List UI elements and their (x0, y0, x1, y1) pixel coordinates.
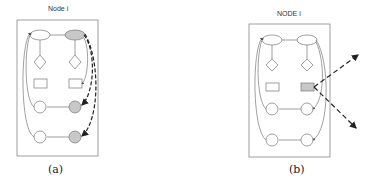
row4-right-circle (69, 131, 81, 143)
node-box (17, 20, 98, 156)
top-right-ellipse (297, 35, 317, 45)
panel-b (249, 24, 358, 157)
left-diamond (34, 55, 46, 69)
dashed-arrow-up (314, 55, 358, 87)
row3-right-circle (69, 101, 81, 113)
row4-left-circle (34, 131, 46, 143)
left-rectangle (266, 83, 279, 91)
row3-left-circle (34, 101, 46, 113)
right-rectangle (301, 83, 314, 91)
dashed-arrow-2 (82, 34, 96, 136)
right-diamond (301, 59, 313, 71)
row3-left-circle (266, 103, 278, 115)
top-left-ellipse (30, 30, 50, 40)
dashed-arrow-down (314, 87, 356, 128)
right-diamond (69, 55, 81, 69)
right-rectangle (69, 79, 82, 88)
row4-right-circle (301, 134, 313, 146)
row4-left-circle (266, 134, 278, 146)
diagram-canvas (0, 0, 377, 185)
node-box (249, 24, 330, 157)
top-right-ellipse (65, 30, 85, 40)
left-rectangle (34, 79, 47, 88)
row3-right-circle (301, 103, 313, 115)
left-diamond (266, 59, 278, 71)
top-left-ellipse (262, 35, 282, 45)
panel-a (17, 20, 98, 156)
